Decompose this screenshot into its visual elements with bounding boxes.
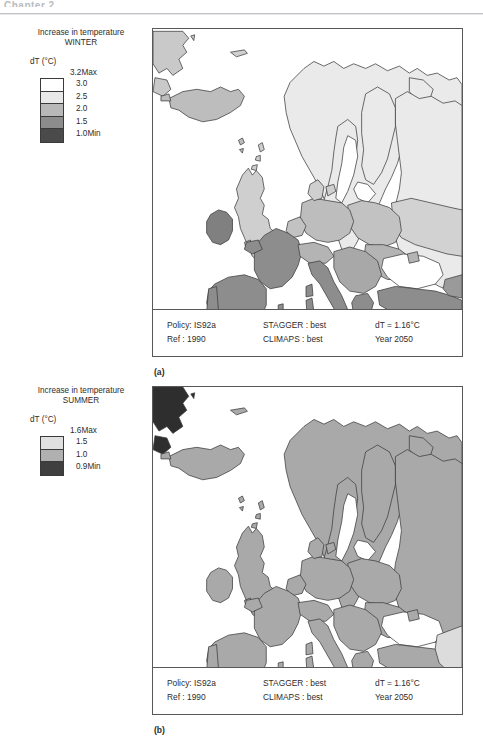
infobox-summer: Policy: IS92a Ref : 1990 STAGGER : best …: [153, 667, 462, 714]
legend-swatch-spacer: [40, 67, 64, 78]
legend-swatches-summer: 1.6Max 1.5 1.0 0.9Min: [40, 425, 146, 474]
infobox-col-result-winter: dT = 1.16°C Year 2050: [375, 318, 420, 346]
legend-row-max-summer: 1.6Max: [40, 425, 146, 436]
legend-unit-winter: dT (°C): [30, 57, 146, 66]
legend-swatch-1-5: [41, 437, 63, 450]
legend-unit-summer: dT (°C): [30, 415, 146, 424]
map-summer: Policy: IS92a Ref : 1990 STAGGER : best …: [152, 386, 463, 715]
header-rule: [0, 13, 483, 15]
legend-swatch-1-0-summer: [41, 450, 63, 463]
legend-label-1-5: 1.5: [76, 116, 146, 129]
legend-swatches-winter: 3.2Max 3.0 2.5 2.0 1.5: [40, 67, 146, 141]
legend-swatch-3-0: [41, 79, 63, 92]
legend-swatch-stack-summer: [40, 436, 64, 476]
legend-swatch-1-0: [41, 129, 63, 142]
legend-label-1-0: 1.0Min: [76, 128, 146, 141]
map-summer-canvas: [153, 387, 462, 714]
policy-line-summer: Policy: IS92a: [167, 676, 216, 690]
ref-line-winter: Ref : 1990: [167, 332, 216, 346]
legend-title-summer: Increase in temperature SUMMER: [16, 386, 146, 406]
legend-swatch-0-9: [41, 462, 63, 475]
legend-swatch-1-5: [41, 117, 63, 130]
running-head: Chapter 2: [4, 0, 55, 7]
infobox-col-model-summer: STAGGER : best CLIMAPS : best: [263, 676, 326, 704]
legend-label-3-0: 3.0: [76, 78, 146, 91]
caption-b: (b): [154, 725, 165, 735]
climaps-line-winter: CLIMAPS : best: [263, 332, 326, 346]
caption-a: (a): [154, 367, 165, 377]
legend-label-1-5-summer: 1.5: [76, 436, 146, 449]
legend-winter: Increase in temperature WINTER dT (°C) 3…: [16, 28, 146, 141]
year-line-summer: Year 2050: [375, 690, 420, 704]
legend-swatch-2-0: [41, 104, 63, 117]
year-line-winter: Year 2050: [375, 332, 420, 346]
legend-label-1-0-summer: 1.0: [76, 449, 146, 462]
legend-label-2-5: 2.5: [76, 91, 146, 104]
dt-line-winter: dT = 1.16°C: [375, 318, 420, 332]
infobox-col-policy-summer: Policy: IS92a Ref : 1990: [167, 676, 216, 704]
legend-summer: Increase in temperature SUMMER dT (°C) 1…: [16, 386, 146, 474]
stagger-line-winter: STAGGER : best: [263, 318, 326, 332]
legend-season-winter: WINTER: [16, 38, 146, 48]
legend-title-line1-summer: Increase in temperature: [38, 386, 124, 395]
legend-label-max-winter: 3.2Max: [70, 68, 97, 77]
legend-label-0-9-summer: 0.9Min: [76, 461, 146, 474]
map-winter-canvas: [153, 29, 462, 356]
legend-row-max-winter: 3.2Max: [40, 67, 146, 78]
legend-swatch-spacer-summer: [40, 425, 64, 436]
infobox-winter: Policy: IS92a Ref : 1990 STAGGER : best …: [153, 309, 462, 356]
infobox-col-result-summer: dT = 1.16°C Year 2050: [375, 676, 420, 704]
infobox-col-policy-winter: Policy: IS92a Ref : 1990: [167, 318, 216, 346]
dt-line-summer: dT = 1.16°C: [375, 676, 420, 690]
policy-line-winter: Policy: IS92a: [167, 318, 216, 332]
legend-swatch-stack-winter: [40, 78, 64, 143]
legend-label-2-0: 2.0: [76, 103, 146, 116]
legend-title-winter: Increase in temperature WINTER: [16, 28, 146, 48]
ref-line-summer: Ref : 1990: [167, 690, 216, 704]
climaps-line-summer: CLIMAPS : best: [263, 690, 326, 704]
stagger-line-summer: STAGGER : best: [263, 676, 326, 690]
legend-season-summer: SUMMER: [16, 396, 146, 406]
map-winter: Policy: IS92a Ref : 1990 STAGGER : best …: [152, 28, 463, 357]
legend-swatch-2-5: [41, 92, 63, 105]
infobox-col-model-winter: STAGGER : best CLIMAPS : best: [263, 318, 326, 346]
figure-page: Chapter 2 Increase in temperature WINTER…: [0, 0, 483, 737]
legend-title-line1: Increase in temperature: [38, 28, 124, 37]
legend-label-max-summer: 1.6Max: [70, 426, 97, 435]
